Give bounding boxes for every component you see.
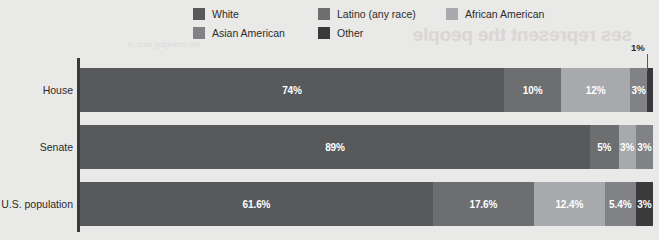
- bar-segment-other: 3%: [636, 182, 653, 226]
- bar-segment-value-label: 12.4%: [555, 199, 583, 210]
- bar-segment-asian-american: 5.4%: [605, 182, 636, 226]
- bar-segment-african-american: 3%: [619, 125, 636, 169]
- bar-segment-white: 74%: [80, 68, 504, 112]
- bar-segment-value-label: 12%: [586, 85, 606, 96]
- legend-label-white: White: [212, 8, 239, 20]
- bar-segment-value-label: 3%: [637, 142, 651, 153]
- bar-segment-value-label: 74%: [282, 85, 302, 96]
- chart-row-us-population: U.S. population 61.6%17.6%12.4%5.4%3%: [80, 182, 653, 226]
- bar-segment-value-label: 5%: [597, 142, 611, 153]
- bar-segment-value-label: 61.6%: [243, 199, 271, 210]
- legend-label-asian-american: Asian American: [212, 27, 285, 39]
- legend-item-latino: Latino (any race): [318, 8, 446, 20]
- legend-item-african-american: African American: [446, 8, 606, 20]
- legend-swatch-african-american-icon: [446, 8, 458, 20]
- bar-segment-value-label: 3%: [632, 85, 646, 96]
- bar-segment-african-american: 12%: [561, 68, 630, 112]
- legend-row: White Latino (any race) African American: [193, 8, 613, 27]
- legend-row: Asian American Other: [193, 27, 613, 46]
- bar-segment-latino-any-race: 5%: [590, 125, 619, 169]
- legend-swatch-asian-american-icon: [193, 27, 205, 39]
- legend-label-other: Other: [337, 27, 363, 39]
- legend-swatch-white-icon: [193, 8, 205, 20]
- bar-segment-african-american: 12.4%: [534, 182, 605, 226]
- bar-segment-value-label: 10%: [523, 85, 543, 96]
- bar-segment-asian-american: 3%: [630, 68, 647, 112]
- category-label-house: House: [0, 68, 73, 112]
- stacked-bar-house: 74%10%12%3%1%: [80, 68, 653, 112]
- legend-item-asian-american: Asian American: [193, 27, 318, 39]
- bar-segment-value-label: 17.6%: [469, 199, 497, 210]
- chart-row-senate: Senate 89%5%3%3%: [80, 125, 653, 169]
- bar-segment-latino-any-race: 10%: [504, 68, 561, 112]
- annotation-label: 1%: [631, 42, 645, 53]
- chart-legend: White Latino (any race) African American…: [193, 8, 613, 46]
- bar-segment-value-label: 5.4%: [609, 199, 631, 210]
- legend-label-african-american: African American: [465, 8, 544, 20]
- legend-item-other: Other: [318, 27, 446, 39]
- category-label-senate: Senate: [0, 125, 73, 169]
- bar-segment-white: 61.6%: [80, 182, 433, 226]
- legend-item-white: White: [193, 8, 318, 20]
- stacked-bar-us-population: 61.6%17.6%12.4%5.4%3%: [80, 182, 653, 226]
- bar-segment-other: 1%: [647, 68, 653, 112]
- bar-segment-value-label: 3%: [620, 142, 634, 153]
- stacked-bar-senate: 89%5%3%3%: [80, 125, 653, 169]
- background-bleed-subtext: the changing face of: [40, 40, 200, 54]
- bar-segment-white: 89%: [80, 125, 590, 169]
- bar-segment-value-label: 89%: [325, 142, 345, 153]
- bar-segment-latino-any-race: 17.6%: [433, 182, 534, 226]
- chart-row-house: House 74%10%12%3%1%: [80, 68, 653, 112]
- bar-segment-value-label: 3%: [637, 199, 651, 210]
- bar-segment-asian-american: 3%: [636, 125, 653, 169]
- legend-swatch-other-icon: [318, 27, 330, 39]
- category-label-us-population: U.S. population: [0, 182, 73, 226]
- legend-label-latino: Latino (any race): [337, 8, 416, 20]
- stacked-bar-chart-plot-area: House 74%10%12%3%1% Senate 89%5%3%3% U.S…: [0, 56, 659, 240]
- legend-swatch-latino-icon: [318, 8, 330, 20]
